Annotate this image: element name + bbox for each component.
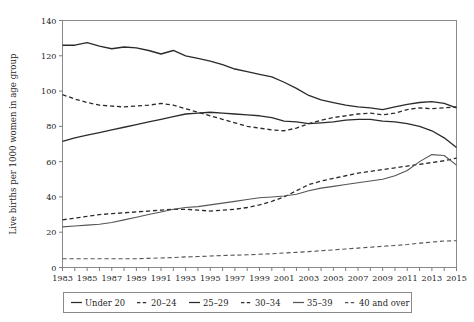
chart-legend: Under 2020–2425–2930–3435–3940 and over (64, 293, 412, 313)
x-tick-label: 2011 (397, 273, 418, 283)
y-axis-ticks (59, 21, 63, 268)
legend-label-25-29: 25–29 (203, 298, 229, 308)
x-tick-label: 2009 (372, 273, 393, 283)
x-tick-label: 1983 (52, 273, 73, 283)
data-series-group (63, 43, 457, 259)
x-axis-tick-labels: 1983198519871989199119931995199719992001… (52, 273, 467, 283)
y-tick-label: 120 (41, 51, 56, 61)
y-tick-label: 80 (46, 121, 56, 131)
y-axis-tick-labels: 020406080100120140 (41, 16, 56, 273)
series-line-40-and-over (63, 241, 457, 259)
x-tick-label: 1995 (200, 273, 221, 283)
x-tick-label: 2001 (274, 273, 295, 283)
legend-label-35-39: 35–39 (307, 298, 333, 308)
y-tick-label: 140 (41, 16, 56, 26)
x-tick-label: 2003 (298, 273, 319, 283)
x-tick-label: 1991 (151, 273, 172, 283)
x-tick-label: 1999 (249, 273, 270, 283)
series-line-35-39 (63, 155, 457, 227)
legend-label-20-24: 20–24 (151, 298, 177, 308)
legend-label-30-34: 30–34 (255, 298, 281, 308)
legend-label-under-20: Under 20 (85, 298, 125, 308)
chart-figure: 020406080100120140 198319851987198919911… (0, 0, 474, 322)
x-tick-label: 2013 (422, 273, 443, 283)
x-tick-label: 1985 (77, 273, 98, 283)
line-chart-svg: 020406080100120140 198319851987198919911… (0, 0, 474, 322)
x-tick-label: 2005 (323, 273, 344, 283)
series-line-25-29 (63, 112, 457, 147)
plot-frame (63, 21, 457, 268)
plot-area-border (63, 21, 457, 268)
x-tick-label: 1987 (101, 273, 122, 283)
x-tick-label: 1993 (175, 273, 196, 283)
y-tick-label: 100 (41, 86, 56, 96)
y-axis-label: Live births per 1000 women in age group (8, 53, 18, 234)
x-axis-ticks (63, 268, 457, 272)
y-tick-label: 0 (51, 263, 56, 273)
y-tick-label: 60 (46, 157, 56, 167)
x-tick-label: 1989 (126, 273, 147, 283)
x-tick-label: 1997 (225, 273, 246, 283)
series-line-20-24 (63, 95, 457, 131)
series-line-30-34 (63, 158, 457, 220)
series-line-under-20 (63, 43, 457, 110)
y-tick-label: 40 (46, 192, 56, 202)
x-tick-label: 2015 (446, 273, 467, 283)
x-tick-label: 2007 (348, 273, 369, 283)
legend-label-40-and-over: 40 and over (359, 298, 409, 308)
y-tick-label: 20 (46, 227, 56, 237)
